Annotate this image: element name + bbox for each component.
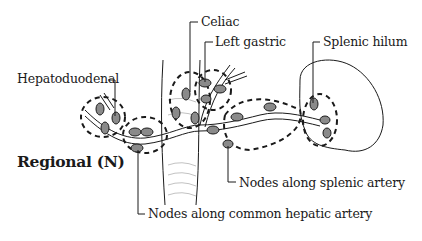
label-left-gastric: Left gastric <box>215 36 286 49</box>
label-regional-n: Regional (N) <box>17 154 125 170</box>
label-celiac: Celiac <box>201 16 239 29</box>
aorta <box>162 60 200 205</box>
label-splenic-hilum: Splenic hilum <box>323 36 407 49</box>
label-hepatoduodenal: Hepatoduodenal <box>17 73 119 86</box>
regional-lymph-nodes-diagram: Hepatoduodenal Celiac Left gastric Splen… <box>0 0 422 241</box>
label-splenic-artery-nodes: Nodes along splenic artery <box>239 177 405 190</box>
label-common-hepatic-artery-nodes: Nodes along common hepatic artery <box>148 208 372 221</box>
